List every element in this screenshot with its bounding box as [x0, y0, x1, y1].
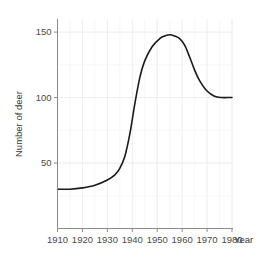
- y-tick-label: 50: [41, 157, 52, 168]
- x-tick-label: 1950: [147, 234, 168, 245]
- x-tick-label: 1960: [172, 234, 193, 245]
- x-axis-title: Year: [234, 234, 253, 245]
- x-tick-label: 1970: [197, 234, 218, 245]
- x-tick-label: 1940: [122, 234, 143, 245]
- x-tick-label: 1910: [47, 234, 68, 245]
- chart-canvas: 50100150 1910192019301940195019601970198…: [0, 0, 275, 262]
- y-axis-title: Number of deer: [13, 91, 24, 157]
- deer-population-line-chart: 50100150 1910192019301940195019601970198…: [0, 0, 275, 262]
- y-tick-label: 100: [36, 92, 52, 103]
- y-tick-label: 150: [36, 26, 52, 37]
- x-tick-label: 1920: [72, 234, 93, 245]
- chart-background: [0, 0, 275, 262]
- x-tick-label: 1930: [97, 234, 118, 245]
